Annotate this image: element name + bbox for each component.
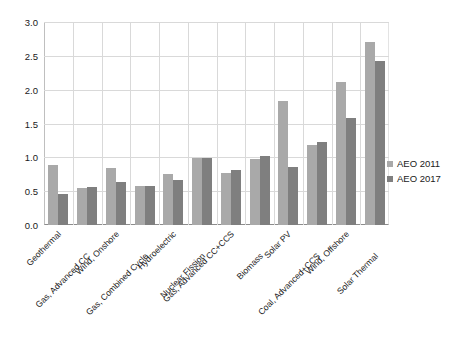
y-axis-tick-label: 2.5 (2, 50, 38, 61)
legend-item[interactable]: AEO 2017 (387, 173, 441, 184)
bar-group (73, 22, 102, 225)
bar-group (217, 22, 246, 225)
bar (375, 61, 385, 225)
bar (173, 180, 183, 225)
bar (288, 167, 298, 225)
bar (365, 42, 375, 225)
bar-group (159, 22, 188, 225)
x-axis-tick-label: Wind, Offshore (303, 229, 350, 276)
legend-swatch-icon (387, 176, 393, 182)
y-axis-tick-label: 3.0 (2, 17, 38, 28)
bar (106, 168, 116, 225)
bar (346, 118, 356, 225)
legend-label: AEO 2011 (397, 158, 440, 169)
legend-item[interactable]: AEO 2011 (387, 158, 441, 169)
x-axis-tick-label: Solar Thermal (335, 251, 380, 296)
legend-swatch-icon (387, 161, 393, 167)
bar (260, 156, 270, 225)
plot-area (44, 22, 389, 225)
bar (116, 182, 126, 225)
bar (135, 186, 145, 225)
bar-group (274, 22, 303, 225)
y-axis-tick-label: 0.0 (2, 220, 38, 231)
y-axis-tick-label: 1.0 (2, 152, 38, 163)
bar (221, 173, 231, 225)
x-axis-tick-label: Solar PV (262, 229, 293, 260)
bar (202, 158, 212, 225)
bar-group (303, 22, 332, 225)
bar (87, 187, 97, 225)
x-axis-tick-label: Wind, Onshore (73, 229, 121, 277)
bar-groups (44, 22, 389, 225)
x-axis-labels: GeothermalGas, Advanced CCWind, OnshoreG… (44, 225, 389, 340)
y-axis-tick-label: 0.5 (2, 186, 38, 197)
bar-group (102, 22, 131, 225)
bar-chart: 0.00.51.01.52.02.53.0 GeothermalGas, Adv… (0, 0, 459, 340)
bar (336, 82, 346, 225)
bar (231, 170, 241, 225)
bar (77, 188, 87, 225)
bar-group (245, 22, 274, 225)
bar-group (130, 22, 159, 225)
bar (192, 158, 202, 225)
bar (278, 101, 288, 225)
bar-group (332, 22, 361, 225)
y-axis-tick-label: 1.5 (2, 118, 38, 129)
x-axis-tick-label: Biomass (234, 251, 264, 281)
x-axis-tick-label: Geothermal (25, 229, 64, 268)
bar (307, 145, 317, 225)
bar (163, 174, 173, 225)
bar (48, 165, 58, 225)
bar (58, 194, 68, 225)
bar-group (44, 22, 73, 225)
bar-group (188, 22, 217, 225)
y-axis-tick-label: 2.0 (2, 84, 38, 95)
legend-label: AEO 2017 (397, 173, 441, 184)
bar (317, 142, 327, 225)
bar (145, 186, 155, 225)
bar-group (360, 22, 389, 225)
legend: AEO 2011AEO 2017 (387, 158, 441, 184)
bar (250, 159, 260, 225)
